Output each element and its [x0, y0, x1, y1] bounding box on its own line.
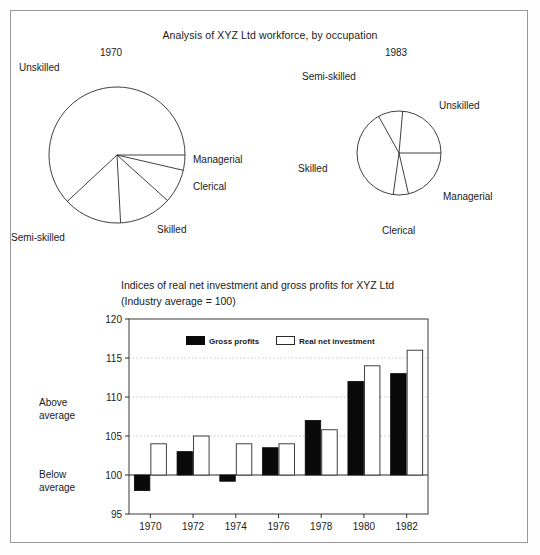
bar-real-net-investment-1974: [236, 444, 252, 475]
bar-gross-profits-1970: [134, 475, 150, 491]
xtick-label-1974: 1974: [225, 521, 248, 532]
bar-gross-profits-1972: [177, 452, 193, 475]
outer-frame: Analysis of XYZ Ltd workforce, by occupa…: [10, 10, 528, 543]
xtick-label-1980: 1980: [353, 521, 376, 532]
legend-swatch-gross-profits: [186, 336, 205, 345]
bar-real-net-investment-1980: [364, 366, 380, 475]
bar-real-net-investment-1972: [194, 436, 210, 475]
ytick-label-105: 105: [105, 431, 122, 442]
bar-real-net-investment-1978: [322, 430, 338, 475]
bar-gross-profits-1982: [391, 374, 407, 475]
ytick-label-100: 100: [105, 470, 122, 481]
ytick-label-120: 120: [105, 314, 122, 325]
legend-label-real-net-investment: Real net investment: [299, 337, 375, 346]
xtick-label-1970: 1970: [139, 521, 162, 532]
bar-real-net-investment-1982: [407, 350, 423, 475]
ytick-label-110: 110: [106, 392, 122, 403]
bar-real-net-investment-1970: [151, 444, 167, 475]
xtick-label-1978: 1978: [310, 521, 333, 532]
legend-label-gross-profits: Gross profits: [209, 337, 259, 346]
bar-chart-graphic: 9510010511011512019701972197419761978198…: [11, 11, 529, 544]
xtick-label-1976: 1976: [267, 521, 290, 532]
xtick-label-1982: 1982: [396, 521, 419, 532]
xtick-label-1972: 1972: [182, 521, 205, 532]
bar-gross-profits-1974: [220, 475, 236, 481]
bar-real-net-investment-1976: [279, 444, 295, 475]
bar-gross-profits-1978: [305, 420, 321, 475]
plot-frame: [129, 319, 428, 514]
ytick-label-95: 95: [111, 509, 123, 520]
screenshot-page: Analysis of XYZ Ltd workforce, by occupa…: [0, 0, 540, 555]
bar-gross-profits-1976: [263, 448, 279, 475]
bar-gross-profits-1980: [348, 381, 364, 475]
ytick-label-115: 115: [106, 353, 122, 364]
legend-swatch-real-net-investment: [276, 336, 295, 345]
